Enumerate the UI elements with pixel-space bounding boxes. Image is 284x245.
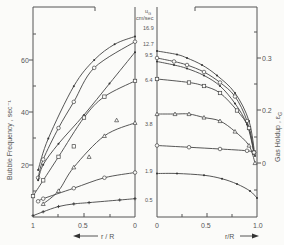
data-point-circle-icon xyxy=(57,126,61,130)
data-point-square-icon xyxy=(187,81,190,84)
legend-value: 1.9 xyxy=(145,168,153,174)
data-point-dot-icon xyxy=(156,173,158,175)
data-point-square-icon xyxy=(155,77,158,80)
data-point-dot-icon xyxy=(73,85,75,87)
data-point-square-icon xyxy=(247,126,250,129)
data-point-dot-icon xyxy=(201,64,203,66)
series-6-4 xyxy=(31,79,136,198)
svg-text:r / R: r / R xyxy=(101,233,114,240)
series-curve xyxy=(157,51,255,156)
data-point-circle-icon xyxy=(233,95,237,99)
series-curve xyxy=(38,52,135,180)
data-point-circle-icon xyxy=(133,40,137,44)
right-x-axis-title: r/R xyxy=(225,233,259,240)
left-x-axis-title: r / R xyxy=(73,233,114,240)
series-12-7 xyxy=(36,40,137,180)
series-3-8 xyxy=(155,112,257,165)
left-ytick: 40 xyxy=(21,109,29,116)
series-curve xyxy=(157,79,254,153)
data-point-circle-icon xyxy=(185,63,189,67)
data-point-plus-icon xyxy=(118,198,121,201)
chart-canvas: 60 40 20 1 0.5 0 0 0.5 1.0 0.3 0.2 0 Bub… xyxy=(0,0,284,245)
left-xtick: 0.5 xyxy=(78,222,88,229)
legend-value: 0.5 xyxy=(145,197,153,203)
data-point-dot-icon xyxy=(109,83,111,85)
data-point-triangle-icon xyxy=(202,116,206,120)
data-point-dot-icon xyxy=(37,179,39,181)
data-point-circle-icon xyxy=(252,151,256,155)
legend-unit: cm/sec xyxy=(136,15,154,21)
data-point-dot-icon xyxy=(256,197,258,199)
data-point-circle-icon xyxy=(218,81,222,85)
right-xtick: 0 xyxy=(155,222,159,229)
data-point-dot-icon xyxy=(156,50,158,52)
left-panel-frame xyxy=(33,7,135,217)
data-point-circle-icon xyxy=(41,158,45,162)
series-curve xyxy=(157,114,255,163)
data-point-circle-icon xyxy=(72,186,76,190)
data-point-circle-icon xyxy=(187,145,191,149)
data-point-dot-icon xyxy=(203,75,205,77)
legend-value: 3.8 xyxy=(145,121,153,127)
data-point-dot-icon xyxy=(216,75,218,77)
series-curve xyxy=(38,42,135,178)
data-point-square-icon xyxy=(82,116,85,119)
right-ytick: 0.3 xyxy=(262,55,272,62)
data-point-triangle-icon xyxy=(87,155,91,159)
data-point-dot-icon xyxy=(219,85,221,87)
data-point-triangle-icon xyxy=(187,112,191,116)
data-point-dot-icon xyxy=(186,57,188,59)
data-point-circle-icon xyxy=(133,171,137,175)
left-series-group xyxy=(31,35,137,217)
data-point-dot-icon xyxy=(234,92,236,94)
data-point-dot-icon xyxy=(37,169,39,171)
right-xtick: 1.0 xyxy=(253,222,263,229)
data-point-circle-icon xyxy=(92,66,96,70)
series-0-5 xyxy=(156,173,258,200)
series-16-9 xyxy=(37,35,136,170)
data-point-circle-icon xyxy=(41,197,45,201)
data-point-circle-icon xyxy=(218,147,222,151)
data-point-circle-icon xyxy=(103,176,107,180)
data-point-triangle-icon xyxy=(173,112,177,116)
data-point-triangle-icon xyxy=(115,118,119,122)
data-point-dot-icon xyxy=(254,155,256,157)
data-point-dot-icon xyxy=(249,190,251,192)
series-1-9 xyxy=(36,171,137,203)
data-point-circle-icon xyxy=(172,60,176,64)
right-y-axis-title: Gas Holdup , εG xyxy=(274,112,283,162)
data-point-square-icon xyxy=(133,79,136,82)
data-point-dot-icon xyxy=(186,68,188,70)
data-point-dot-icon xyxy=(114,43,116,45)
series-16-9 xyxy=(156,50,256,157)
data-point-square-icon xyxy=(202,84,205,87)
data-point-dot-icon xyxy=(176,173,178,175)
data-point-square-icon xyxy=(72,145,75,148)
svg-text:r/R: r/R xyxy=(225,233,234,240)
legend-value: 12.7 xyxy=(143,41,154,47)
series-9-5 xyxy=(156,61,255,154)
data-point-dot-icon xyxy=(58,143,60,145)
data-point-dot-icon xyxy=(236,183,238,185)
series-6-4 xyxy=(155,77,255,154)
legend-value: 6.4 xyxy=(145,77,153,83)
series-curve xyxy=(38,36,135,169)
data-point-circle-icon xyxy=(155,56,159,60)
data-point-square-icon xyxy=(235,109,238,112)
data-point-circle-icon xyxy=(245,149,249,153)
data-point-dot-icon xyxy=(93,59,95,61)
legend-value: 16.9 xyxy=(143,25,154,31)
data-point-triangle-icon xyxy=(253,161,257,165)
data-point-circle-icon xyxy=(72,100,76,104)
series-curve xyxy=(157,146,254,153)
data-point-triangle-icon xyxy=(133,121,137,125)
data-point-square-icon xyxy=(218,91,221,94)
left-ytick: 60 xyxy=(21,57,29,64)
right-ytick: 0.2 xyxy=(262,107,272,114)
data-point-circle-icon xyxy=(36,200,40,204)
data-point-square-icon xyxy=(103,95,106,98)
legend: uG cm/sec 16.9 12.7 9.5 6.4 3.8 1.9 0.5 xyxy=(136,8,154,203)
series-9-5 xyxy=(37,51,136,181)
data-point-plus-icon xyxy=(88,201,91,204)
data-point-triangle-icon xyxy=(155,112,159,116)
